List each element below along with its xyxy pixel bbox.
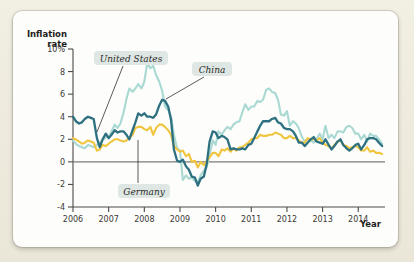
- y-axis-tick-label: 0: [60, 158, 65, 167]
- x-axis-tick-label: 2012: [277, 215, 297, 224]
- series-layer: [73, 64, 382, 186]
- series-line-china: [73, 64, 382, 183]
- y-axis-tick-label: 10%: [47, 45, 65, 54]
- chart-plot-area: Inflation rate Year 10%86420-2-420062007…: [13, 11, 398, 247]
- y-axis-tick-label: -4: [57, 203, 65, 212]
- y-axis-tick-label: 8: [60, 68, 65, 77]
- x-axis-tick-label: 2014: [348, 215, 368, 224]
- y-axis-tick-label: 6: [60, 90, 65, 99]
- y-axis-tick-label: -2: [57, 180, 65, 189]
- figure-root: Inflation rate Year 10%86420-2-420062007…: [0, 0, 414, 262]
- chart-card: Inflation rate Year 10%86420-2-420062007…: [13, 11, 398, 247]
- x-axis-tick-label: 2007: [98, 215, 118, 224]
- annotation-label-germany: Germany: [123, 187, 166, 197]
- annotation-label-us: United States: [100, 54, 163, 64]
- x-axis-tick-label: 2013: [312, 215, 332, 224]
- y-axis-tick-label: 4: [60, 113, 65, 122]
- x-axis-tick-label: 2006: [63, 215, 83, 224]
- series-line-united-states: [73, 100, 382, 186]
- annotation-label-china: China: [199, 65, 226, 75]
- y-axis-tick-label: 2: [60, 135, 65, 144]
- leader-line-us: [97, 66, 123, 132]
- x-axis-tick-label: 2011: [241, 215, 261, 224]
- leader-line-china: [166, 77, 204, 99]
- inflation-rate-line-chart: Inflation rate Year 10%86420-2-420062007…: [13, 11, 398, 247]
- x-axis-tick-label: 2008: [134, 215, 154, 224]
- y-axis-title-line1: Inflation: [27, 29, 67, 39]
- x-axis-tick-label: 2009: [170, 215, 190, 224]
- x-axis-tick-label: 2010: [205, 215, 225, 224]
